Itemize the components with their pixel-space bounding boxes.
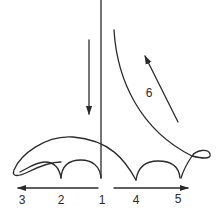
label-2: 2 bbox=[58, 193, 65, 207]
loop bbox=[181, 150, 210, 178]
label-3: 3 bbox=[19, 193, 26, 207]
trajectory-diagram: 3 2 1 4 5 6 bbox=[0, 0, 221, 217]
arch-1-2 bbox=[61, 160, 101, 178]
label-4: 4 bbox=[133, 193, 140, 207]
label-6: 6 bbox=[146, 86, 153, 100]
arch-4-5 bbox=[136, 161, 180, 180]
descending-curve bbox=[114, 30, 192, 156]
arch-2-3 bbox=[20, 162, 61, 178]
label-5: 5 bbox=[175, 192, 182, 206]
label-1: 1 bbox=[99, 193, 106, 207]
large-arc bbox=[13, 137, 136, 180]
